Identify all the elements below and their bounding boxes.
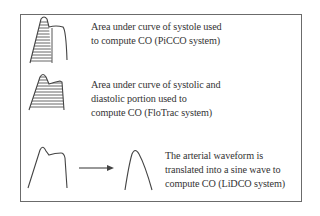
caption-line: Area under curve of systolic and [91, 78, 220, 92]
sine-wave-icon [125, 151, 152, 191]
flotrac-caption: Area under curve of systolic and diastol… [91, 78, 220, 120]
flotrac-waveform-icon [27, 75, 66, 111]
arterial-waveform-icon [28, 147, 67, 188]
caption-line: diastolic portion used to [91, 92, 220, 106]
caption-line: to compute CO (PiCCO system) [91, 34, 222, 48]
picco-caption: Area under curve of systole used to comp… [91, 20, 222, 48]
lidco-caption: The arterial waveform is translated into… [165, 149, 285, 191]
caption-line: translated into a sine wave to [165, 163, 285, 177]
picco-waveform-icon [28, 17, 67, 63]
caption-line: Area under curve of systole used [91, 20, 222, 34]
arrow-right-icon [79, 165, 114, 171]
caption-line: compute CO (FloTrac system) [91, 106, 220, 120]
caption-line: compute CO (LiDCO system) [165, 177, 285, 191]
caption-line: The arterial waveform is [165, 149, 285, 163]
